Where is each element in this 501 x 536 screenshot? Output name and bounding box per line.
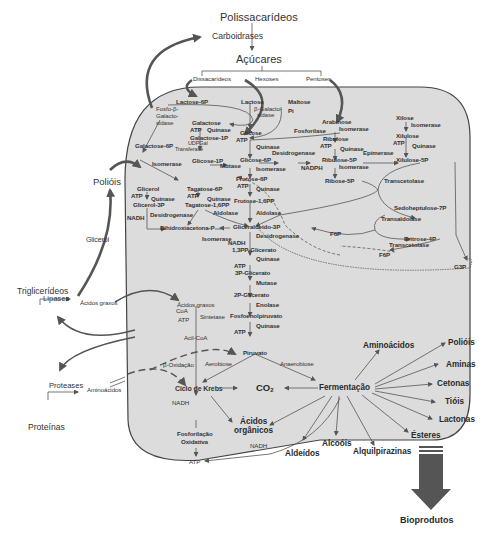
cofactor-atp-tagatose: ATP	[187, 193, 199, 199]
label-lipases: Lipases	[43, 295, 69, 303]
label-aminoacidos-external: Aminoácidos	[87, 387, 121, 393]
enzyme-isomerase-dihidroxiacetona: Isomerase	[202, 236, 232, 242]
node-2p-glicerato: 2P-Glicerato	[234, 292, 269, 298]
enzyme-epimerase: Epimerase	[363, 150, 393, 156]
metabolic-diagram: Polissacarídeos Carboidrases Açúcares Di…	[0, 0, 501, 536]
label-beta-oxidacao: β-Oxidação	[163, 362, 194, 368]
node-co2: CO2	[256, 383, 274, 393]
label-anaerobiose: Anaerobiose	[280, 361, 314, 367]
co2-text: CO	[256, 382, 270, 393]
product-aminas: Aminas	[446, 361, 476, 369]
enzyme-desidrogenase-gliceraldeido: Desidrogenase	[256, 233, 299, 239]
enzyme-transcetolase-1: Transcetolase	[384, 178, 424, 184]
cofactor-nadh-krebs: NADH	[172, 400, 189, 406]
cofactor-atp-glicerol: ATP	[131, 193, 143, 199]
enzyme-desidrogenase-pentose: Desidrogenase	[272, 150, 315, 156]
cofactor-nadh-organicos: NADH	[250, 443, 267, 449]
label-poliois-external: Polióis	[93, 177, 121, 187]
co2-subscript: 2	[270, 387, 273, 393]
label-polissacarideos: Polissacarídeos	[220, 12, 298, 23]
node-tagatose-16pp: Tagatose-1,6PP	[185, 202, 229, 208]
enzyme-isomerase-glicose: Isomerase	[256, 166, 286, 172]
cofactor-nadh-glicerol: NADH	[127, 215, 144, 221]
enzyme-isomerase-galactose: Isomerase	[152, 161, 182, 167]
node-acil-coa: Acil-CoA	[184, 335, 207, 341]
product-tiois: Tióis	[445, 398, 464, 406]
enzyme-transferase: Transferase	[175, 147, 203, 153]
label-acidos-graxos-external: Ácidos graxos	[80, 300, 118, 306]
node-glicose-1p: Glicose-1P	[192, 158, 223, 164]
node-acidos-organicos-1: Ácidos	[240, 418, 267, 426]
node-acidos-organicos-2: orgânicos	[234, 427, 273, 435]
enzyme-aldolase-frutose: Aldolase	[256, 210, 281, 216]
cofactor-nadph: NADPH	[301, 165, 323, 171]
node-galactose-6p: Galactose-6P	[135, 143, 173, 149]
enzyme-sintetase: Sintetase	[200, 314, 225, 320]
node-piruvato: Piruvato	[243, 350, 267, 356]
enzyme-quinase-xilulose: Quinase	[412, 143, 436, 149]
node-gliceraldeido-3p: Gliceraldeído-3P	[233, 224, 280, 230]
label-carboidrases: Carboidrases	[212, 32, 263, 41]
product-lactonas: Lactonas	[439, 416, 475, 424]
product-alcoois: Alcoóis	[322, 440, 352, 448]
node-fosforilacao-1: Fosforilação	[177, 431, 213, 437]
node-fermentacao: Fermentação	[319, 384, 370, 392]
enzyme-mutase-pg: Mutase	[256, 280, 277, 286]
enzyme-isomerase-arabinose: Isomerase	[339, 126, 369, 132]
node-frutose-16pp: Frutose-1,6PP	[234, 198, 274, 204]
enzyme-quinase-pep: Quinase	[256, 323, 280, 329]
node-f6p-1: F6P	[330, 231, 341, 237]
enzyme-beta-galactosidase-2: sidase	[257, 112, 274, 118]
product-esteres: Ésteres	[411, 432, 441, 440]
node-glicose-6p: Glicose-6P	[240, 157, 271, 163]
enzyme-aldolase-tagatose: Aldolase	[213, 210, 238, 216]
cofactor-atp-xilulose: ATP	[393, 140, 405, 146]
enzyme-isomerase-xilose: Isomerase	[411, 122, 441, 128]
enzyme-desidrogenase-glicerol: Desidrogenase	[150, 212, 193, 218]
node-atp-final: ATP	[189, 459, 200, 465]
node-ribose-5p: Ribose-5P	[325, 178, 354, 184]
node-xilulose-5p: Xilulose-5P	[396, 157, 428, 163]
label-acucares: Açúcares	[236, 54, 282, 65]
node-f6p-2: F6P	[379, 252, 390, 258]
product-aminoacidos: Aminoácidos	[363, 342, 414, 350]
label-aerobiose: Aerobiose	[205, 361, 232, 367]
label-proteinas: Proteínas	[28, 423, 65, 432]
label-dissacarideos: Dissacarídeos	[193, 76, 231, 82]
node-ciclo-de-krebs: Ciclo de Krebs	[175, 385, 223, 392]
enzyme-transcetolase-2: Transcetolase	[389, 242, 429, 248]
node-dihidroxiacetona-p: Dihidroxiacetona-P	[160, 225, 215, 231]
label-bioprodutos: Bioprodutos	[400, 516, 454, 525]
cofactor-atp-pep: ATP	[234, 329, 246, 335]
cofactor-coa: CoA	[176, 308, 188, 314]
cofactor-atp-glicose: ATP	[236, 137, 248, 143]
cofactor-atp-frutose: ATP	[237, 183, 249, 189]
enzyme-quinase-galactose: Quinase	[207, 127, 231, 133]
cofactor-atp-galactose: ATP	[190, 127, 202, 133]
enzyme-mutase-glicose: Mutase	[220, 163, 241, 169]
product-cetonas: Cetonas	[437, 380, 469, 388]
enzyme-fosforilase: Fosforilase	[294, 128, 326, 134]
cofactor-atp-lipid: ATP	[178, 317, 189, 323]
node-g3p: G3P	[454, 264, 466, 270]
node-glicerol-3p: Glicerol-3P	[133, 202, 165, 208]
node-maltose: Maltose	[288, 99, 310, 105]
product-alquilpirazinas: Alquilpirazinas	[353, 448, 411, 456]
enzyme-isomerase-ribulose: Isomerase	[339, 164, 369, 170]
cofactor-pi: Pi	[288, 108, 294, 114]
product-aldeidos: Aldeídos	[285, 450, 320, 458]
enzyme-quinase-bpg: Quinase	[256, 256, 280, 262]
enzyme-quinase-ribulose: Quinase	[340, 146, 364, 152]
label-pentoses: Pentoses	[306, 76, 331, 82]
enzyme-quinase-frutose: Quinase	[256, 186, 280, 192]
node-3p-glicerato: 3P-Glicerato	[235, 270, 270, 276]
diagram-lines	[0, 0, 501, 536]
product-poliois: Polióis	[448, 339, 475, 347]
node-fosfoenolpiruvato: Fosfoenolpiruvato	[230, 313, 282, 319]
label-glicerol-external: Glicerol	[86, 236, 109, 243]
cofactor-atp-ribulose: ATP	[320, 143, 332, 149]
node-13pp-glicerato: 1,3PP-Glicerato	[232, 247, 276, 253]
enzyme-enolase: Enolase	[256, 302, 279, 308]
node-sedoheptulose-7p: Sedoheptulose-7P	[394, 205, 446, 211]
label-proteases: Proteases	[49, 382, 83, 390]
